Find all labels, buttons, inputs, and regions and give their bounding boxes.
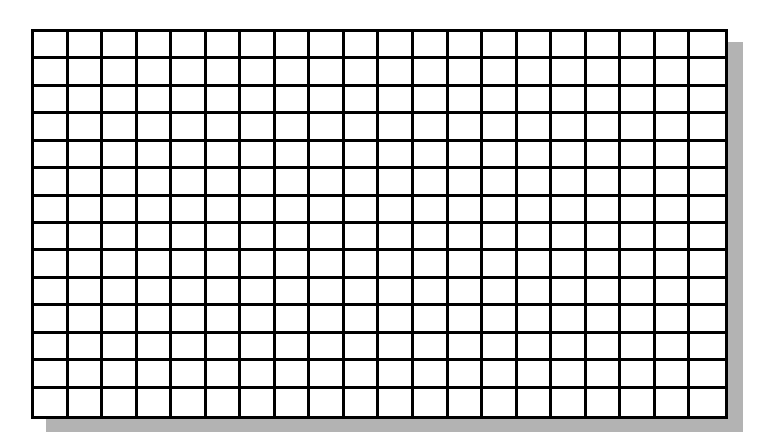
grid-cell [483, 59, 518, 86]
grid-cell [276, 361, 311, 388]
grid-cell [414, 59, 449, 86]
grid-cell [34, 32, 69, 59]
grid-cell [207, 169, 242, 196]
grid-cell [587, 306, 622, 333]
grid-cell [310, 361, 345, 388]
grid-cell [207, 114, 242, 141]
grid-cell [103, 279, 138, 306]
grid-cell [241, 59, 276, 86]
grid-cell [449, 142, 484, 169]
grid-cell [656, 114, 691, 141]
grid-cell [34, 59, 69, 86]
grid-cell [379, 32, 414, 59]
grid-cell [449, 197, 484, 224]
grid-cell [656, 334, 691, 361]
grid-cell [69, 279, 104, 306]
grid-cell [345, 114, 380, 141]
grid-cell [483, 32, 518, 59]
grid-cell [103, 361, 138, 388]
grid-cell [241, 334, 276, 361]
grid-cell [241, 389, 276, 416]
grid-cell [518, 334, 553, 361]
grid-cell [552, 87, 587, 114]
grid-cell [276, 334, 311, 361]
grid-cell [276, 59, 311, 86]
grid-cell [310, 114, 345, 141]
grid-cell [241, 306, 276, 333]
grid-cell [552, 59, 587, 86]
grid-cell [690, 334, 725, 361]
grid-cell [103, 114, 138, 141]
grid-cell [483, 197, 518, 224]
grid-cell [207, 224, 242, 251]
grid-cell [241, 224, 276, 251]
grid-cell [518, 32, 553, 59]
grid-cell [207, 279, 242, 306]
grid-cell [310, 142, 345, 169]
grid-cell [587, 32, 622, 59]
grid-cell [345, 279, 380, 306]
grid-cell [34, 251, 69, 278]
grid-cell [207, 306, 242, 333]
grid-cell [69, 334, 104, 361]
grid-cell [656, 361, 691, 388]
grid-cell [138, 59, 173, 86]
grid-cell [621, 197, 656, 224]
grid-cell [379, 334, 414, 361]
grid-cell [207, 251, 242, 278]
grid-cell [138, 197, 173, 224]
grid-cell [379, 279, 414, 306]
grid-cell [621, 334, 656, 361]
grid-cell [587, 279, 622, 306]
grid-cell [69, 197, 104, 224]
grid-cell [345, 197, 380, 224]
grid-cell [587, 251, 622, 278]
grid-cell [34, 224, 69, 251]
grid-cell [690, 389, 725, 416]
grid-cell [172, 197, 207, 224]
grid-cell [414, 224, 449, 251]
grid-cell [552, 306, 587, 333]
grid-cell [241, 251, 276, 278]
grid-cell [138, 169, 173, 196]
grid-cell [276, 114, 311, 141]
grid-cell [207, 142, 242, 169]
grid-cell [103, 306, 138, 333]
grid-cell [449, 32, 484, 59]
grid-cell [379, 87, 414, 114]
grid-cell [172, 224, 207, 251]
grid-cell [69, 87, 104, 114]
grid-cell [379, 306, 414, 333]
grid-cell [414, 197, 449, 224]
grid-cell [483, 114, 518, 141]
grid-cell [241, 169, 276, 196]
grid-cell [552, 279, 587, 306]
grid-cell [276, 32, 311, 59]
grid-cell [138, 389, 173, 416]
grid-cell [414, 306, 449, 333]
grid-cell [345, 169, 380, 196]
grid-cell [483, 224, 518, 251]
grid-cell [518, 306, 553, 333]
grid-cell [690, 306, 725, 333]
empty-grid-table [31, 29, 728, 419]
grid-cell [414, 169, 449, 196]
grid-cell [587, 389, 622, 416]
grid-cell [34, 142, 69, 169]
grid-cell [483, 251, 518, 278]
grid-cell [449, 114, 484, 141]
grid-cell [621, 306, 656, 333]
grid-cell [552, 334, 587, 361]
grid-cell [138, 224, 173, 251]
grid-cell [276, 389, 311, 416]
grid-cell [69, 32, 104, 59]
grid-cell [34, 114, 69, 141]
grid-cell [656, 251, 691, 278]
grid-cell [310, 87, 345, 114]
grid-cell [345, 306, 380, 333]
grid-cell [276, 197, 311, 224]
grid-cell [449, 389, 484, 416]
grid-cell [449, 334, 484, 361]
grid-cell [587, 87, 622, 114]
grid-cell [172, 142, 207, 169]
